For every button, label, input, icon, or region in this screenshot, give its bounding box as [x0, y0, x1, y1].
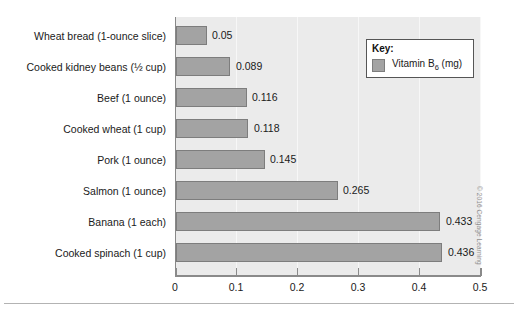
- bar-value-label: 0.145: [270, 152, 296, 166]
- x-axis-tick-label: 0.4: [399, 281, 439, 293]
- x-axis-tick-label: 0.1: [216, 281, 256, 293]
- bar[interactable]: [176, 181, 338, 200]
- bar-value-label: 0.436: [448, 245, 474, 259]
- bar-value-label: 0.05: [212, 28, 232, 42]
- bar[interactable]: [176, 88, 247, 107]
- legend-title: Key:: [372, 43, 468, 55]
- footer-divider: [4, 303, 514, 304]
- x-axis-tick-label: 0.2: [277, 281, 317, 293]
- legend-swatch-icon: [372, 59, 385, 72]
- legend-entry: Vitamin B6 (mg): [372, 58, 468, 72]
- bar[interactable]: [176, 119, 248, 138]
- category-label: Cooked kidney beans (½ cup): [27, 60, 167, 74]
- bar-value-label: 0.265: [343, 183, 369, 197]
- category-label: Cooked wheat (1 cup): [63, 122, 166, 136]
- gridline: [358, 17, 359, 275]
- bar-value-label: 0.118: [254, 121, 280, 135]
- x-axis-tick-label: 0.5: [460, 281, 500, 293]
- category-label: Beef (1 ounce): [97, 91, 166, 105]
- category-label: Cooked spinach (1 cup): [55, 246, 166, 260]
- copyright-credit: © 2016 Cengage Learning: [476, 186, 483, 282]
- gridline: [236, 17, 237, 275]
- x-axis-line: [175, 275, 481, 277]
- legend-entry-unit: (mg): [439, 58, 462, 69]
- bar[interactable]: [176, 57, 230, 76]
- bar[interactable]: [176, 243, 442, 262]
- x-axis-tick: [175, 268, 177, 276]
- category-label: Pork (1 ounce): [97, 153, 166, 167]
- x-axis-tick: [297, 268, 298, 276]
- bar-value-label: 0.089: [236, 59, 262, 73]
- gridline: [297, 17, 298, 275]
- x-axis-tick: [419, 268, 420, 276]
- legend-entry-label: Vitamin B6 (mg): [392, 58, 462, 72]
- bar-chart-figure: Wheat bread (1-ounce slice) Cooked kidne…: [0, 0, 518, 320]
- bar[interactable]: [176, 212, 440, 231]
- bar[interactable]: [176, 150, 265, 169]
- category-label: Salmon (1 ounce): [83, 184, 166, 198]
- category-label: Banana (1 each): [88, 215, 166, 229]
- category-label: Wheat bread (1-ounce slice): [34, 29, 166, 43]
- x-axis-tick-label: 0.3: [338, 281, 378, 293]
- category-axis-labels: Wheat bread (1-ounce slice) Cooked kidne…: [0, 17, 172, 275]
- x-axis-tick: [358, 268, 359, 276]
- bar-value-label: 0.116: [252, 90, 278, 104]
- x-axis-tick-label: 0: [155, 281, 195, 293]
- bar[interactable]: [176, 26, 207, 45]
- bar-value-label: 0.433: [446, 214, 472, 228]
- x-axis-tick: [236, 268, 237, 276]
- chart-legend: Key: Vitamin B6 (mg): [366, 39, 474, 78]
- legend-entry-text: Vitamin B: [392, 58, 435, 69]
